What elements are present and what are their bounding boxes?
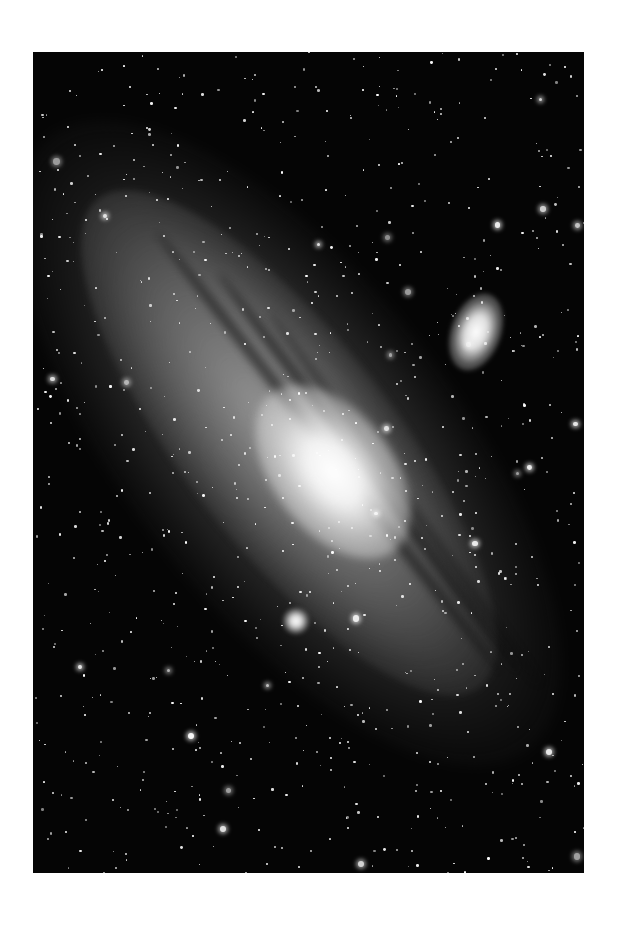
star	[546, 781, 549, 784]
star	[92, 697, 93, 698]
star	[252, 79, 253, 80]
star	[55, 388, 57, 390]
star	[73, 760, 75, 762]
star	[73, 557, 75, 559]
star	[347, 827, 349, 829]
star	[206, 650, 208, 652]
star	[58, 236, 61, 239]
star	[67, 126, 69, 128]
star	[235, 56, 237, 58]
star	[59, 533, 61, 535]
star	[286, 332, 289, 335]
star	[39, 171, 40, 172]
star	[330, 757, 332, 759]
star	[233, 416, 236, 419]
star	[46, 114, 47, 115]
star	[245, 872, 247, 873]
star	[171, 133, 172, 134]
star	[302, 785, 304, 787]
star	[453, 863, 455, 865]
star	[302, 677, 303, 678]
star	[132, 448, 135, 451]
star	[574, 584, 576, 586]
star	[447, 872, 449, 873]
star	[61, 630, 63, 632]
star	[159, 93, 160, 94]
star	[567, 167, 570, 170]
star	[328, 450, 329, 451]
star	[405, 490, 407, 492]
star	[148, 133, 151, 136]
star	[200, 660, 203, 663]
star	[543, 73, 546, 76]
star	[329, 838, 331, 840]
star	[570, 775, 572, 777]
star	[510, 584, 511, 585]
star	[171, 647, 172, 648]
star	[298, 866, 300, 868]
star	[180, 703, 181, 704]
star	[451, 395, 454, 398]
star	[211, 586, 214, 589]
star	[129, 554, 131, 556]
star	[263, 726, 265, 728]
star	[414, 376, 416, 378]
star	[353, 58, 355, 60]
star	[532, 762, 534, 764]
star	[217, 89, 219, 91]
star	[146, 127, 148, 129]
star	[227, 675, 228, 676]
star	[166, 801, 167, 802]
star	[344, 786, 346, 788]
star	[570, 503, 572, 505]
star	[432, 491, 433, 492]
star	[280, 142, 282, 144]
star	[262, 93, 265, 96]
star	[430, 61, 432, 63]
star	[430, 808, 432, 810]
star	[512, 783, 513, 784]
star	[306, 594, 309, 597]
star	[64, 593, 66, 595]
star	[213, 576, 215, 578]
star	[575, 341, 577, 343]
star	[174, 107, 176, 109]
star	[398, 526, 400, 528]
star	[282, 121, 283, 122]
star	[236, 775, 237, 776]
star	[471, 612, 472, 613]
star	[577, 782, 580, 785]
star	[173, 293, 175, 295]
star	[76, 95, 77, 96]
star	[521, 232, 523, 234]
star	[490, 79, 492, 81]
star	[274, 846, 276, 848]
star	[175, 592, 177, 594]
star	[115, 867, 117, 869]
star	[408, 866, 409, 867]
star	[372, 865, 373, 866]
star	[447, 288, 448, 289]
star	[363, 169, 364, 170]
star	[194, 661, 195, 662]
star	[92, 771, 95, 774]
star	[388, 221, 391, 224]
star	[445, 364, 446, 365]
star	[459, 454, 461, 456]
star	[116, 252, 117, 253]
star	[437, 119, 438, 120]
star	[163, 623, 164, 624]
star	[416, 752, 418, 754]
star	[221, 765, 223, 767]
star	[98, 591, 99, 592]
star	[195, 749, 197, 751]
star	[419, 356, 422, 359]
star	[401, 162, 404, 165]
star	[99, 524, 101, 526]
star	[557, 197, 558, 198]
star	[404, 453, 405, 454]
star	[211, 206, 212, 207]
star	[123, 179, 124, 180]
star	[148, 128, 151, 131]
star	[316, 751, 318, 753]
